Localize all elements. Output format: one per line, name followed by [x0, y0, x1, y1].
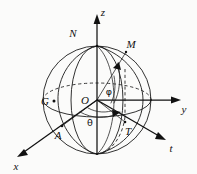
axis-label-x: x	[13, 160, 19, 172]
angle-label-theta: θ	[87, 117, 93, 128]
point-marker-t	[124, 121, 127, 124]
point-label-t: T	[125, 125, 132, 137]
point-label-n: N	[68, 27, 77, 39]
point-label-g: G	[41, 95, 49, 107]
angle-phi-arrowhead	[113, 62, 121, 70]
sphere-diagram-canvas: z y x t N M G O A T φ θ	[0, 0, 197, 174]
point-marker-n	[96, 45, 98, 47]
meridian-through-a	[58, 46, 97, 154]
axis-y-arrowhead	[171, 97, 181, 104]
point-marker-m	[125, 51, 127, 53]
axis-label-z: z	[100, 6, 106, 18]
axis-label-y: y	[181, 103, 187, 115]
axis-x-line	[24, 100, 97, 152]
point-label-o: O	[81, 94, 89, 106]
point-marker-a	[61, 125, 64, 128]
point-marker-g	[53, 100, 56, 103]
axis-label-t: t	[169, 142, 173, 154]
point-label-m: M	[125, 38, 136, 50]
axis-z-arrowhead	[94, 14, 101, 24]
angle-label-phi: φ	[106, 86, 112, 97]
sphere-diagram-figure: z y x t N M G O A T φ θ	[0, 0, 197, 174]
axis-t-arrowhead	[155, 132, 166, 140]
axis-labels-group: z y x t	[13, 6, 187, 172]
axes-group	[17, 14, 181, 157]
meridian-a-group	[58, 46, 97, 154]
point-label-a: A	[54, 129, 62, 141]
